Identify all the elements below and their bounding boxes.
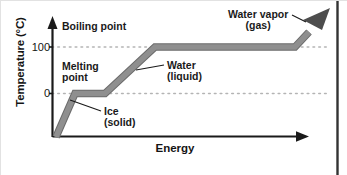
leader-line-ice: [70, 100, 101, 111]
annotation-ice-line1: Ice: [104, 105, 119, 117]
y-tick-label-100: 100: [24, 41, 50, 53]
annotation-water-line1: Water: [167, 59, 196, 71]
annotation-ice: Ice(solid): [104, 106, 136, 129]
annotation-melting-point-line1: Melting: [62, 60, 99, 72]
curve-arrowhead-gas: [303, 8, 330, 30]
annotation-water-vapor-line2: (gas): [246, 19, 271, 31]
annotation-melting-point-line2: point: [62, 71, 88, 83]
y-tick-label-0: 0: [24, 87, 50, 99]
annotation-melting-point: Meltingpoint: [62, 61, 99, 84]
leader-line-vapor: [292, 15, 306, 22]
annotation-water-vapor: Water vapor(gas): [228, 9, 288, 32]
annotation-water: Water(liquid): [167, 60, 202, 83]
annotation-boiling-point: Boiling point: [62, 21, 126, 32]
annotation-ice-line2: (solid): [104, 116, 136, 128]
heating-curve-figure: Temperature (°C) Energy 100 0 Boiling po…: [0, 0, 347, 175]
y-axis-arrowhead: [48, 16, 58, 29]
y-axis-title: Temperature (°C): [14, 6, 26, 118]
x-axis-arrowhead: [296, 131, 309, 141]
x-axis-title: Energy: [120, 142, 230, 154]
annotation-water-vapor-line1: Water vapor: [228, 8, 288, 20]
annotation-water-line2: (liquid): [167, 70, 202, 82]
